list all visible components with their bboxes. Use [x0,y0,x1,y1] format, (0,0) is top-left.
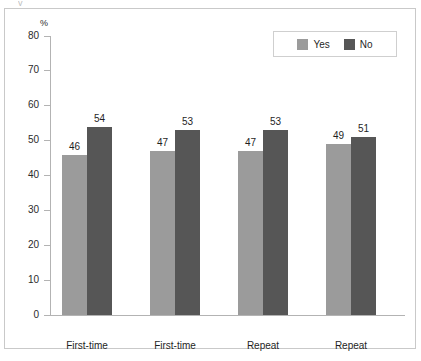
bar-no-2[interactable] [175,130,200,315]
bar-value-yes-3: 47 [238,137,263,148]
bar-value-yes-4: 49 [326,130,351,141]
legend-swatch-no-icon [344,39,355,50]
legend-label-yes: Yes [313,39,329,50]
bar-yes-4[interactable] [326,144,351,315]
y-tick-label-60: 60 [0,100,39,110]
bar-group-1: 46 54 [62,36,114,315]
bar-group-2: 47 53 [150,36,202,315]
bar-yes-2[interactable] [150,151,175,315]
x-axis-line [50,315,405,316]
y-tick-label-70: 70 [0,65,39,75]
legend-item-yes[interactable]: Yes [297,39,329,50]
y-tick-label-10: 10 [0,275,39,285]
bar-value-no-1: 54 [87,113,112,124]
bar-no-3[interactable] [263,130,288,315]
bar-chart: % 80 70 60 50 40 30 20 10 0 46 54 47 53 [0,0,421,361]
bar-no-1[interactable] [87,127,112,315]
bar-yes-3[interactable] [238,151,263,315]
bar-value-yes-1: 46 [62,141,87,152]
legend-label-no: No [360,39,373,50]
y-tick-label-50: 50 [0,135,39,145]
bar-value-no-3: 53 [263,116,288,127]
y-tick-0 [44,315,50,316]
y-tick-label-80: 80 [0,31,39,41]
y-tick-label-40: 40 [0,170,39,180]
bars-layer: 46 54 47 53 47 53 49 51 [50,36,405,315]
y-axis-unit-label: % [40,18,48,28]
bar-group-4: 49 51 [326,36,378,315]
bar-value-no-2: 53 [175,116,200,127]
x-label-3: Repeat [218,340,308,351]
x-label-2: First-time [130,340,220,351]
x-label-4: Repeat [306,340,396,351]
x-label-1: First-time [42,340,132,351]
chart-legend: Yes No [273,31,397,57]
legend-item-no[interactable]: No [344,39,373,50]
bar-yes-1[interactable] [62,155,87,315]
y-tick-label-30: 30 [0,205,39,215]
y-tick-label-0: 0 [0,310,39,320]
legend-swatch-yes-icon [297,39,308,50]
bar-group-3: 47 53 [238,36,290,315]
y-tick-label-20: 20 [0,240,39,250]
bar-value-no-4: 51 [351,123,376,134]
bar-no-4[interactable] [351,137,376,315]
bar-value-yes-2: 47 [150,137,175,148]
